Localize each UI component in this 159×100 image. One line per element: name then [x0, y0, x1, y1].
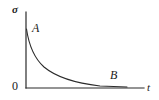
- x-axis-label-t: t: [147, 82, 150, 93]
- axes-group: [26, 12, 144, 88]
- point-b-label: B: [110, 69, 117, 81]
- origin-label: 0: [12, 80, 18, 92]
- plot-canvas: [0, 0, 159, 100]
- point-a-label: A: [32, 22, 39, 34]
- stress-relaxation-figure: σ t 0 A B: [0, 0, 159, 100]
- y-axis-label-sigma: σ: [12, 4, 18, 15]
